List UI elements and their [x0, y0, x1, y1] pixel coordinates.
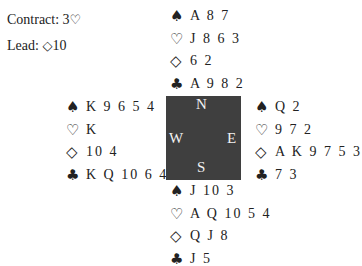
lead-info: Lead: ◇10	[7, 38, 66, 54]
west-clubs: ♣K Q 10 6 4	[66, 164, 168, 187]
club-icon: ♣	[170, 73, 190, 96]
north-spades: ♠A 8 7	[170, 5, 245, 28]
north-hearts: ♡J 8 6 3	[170, 28, 245, 51]
north-hand: ♠A 8 7 ♡J 8 6 3 ◇6 2 ♣A 9 8 2	[170, 5, 245, 95]
south-label: S	[197, 159, 205, 176]
diamond-icon: ◇	[42, 38, 52, 53]
lead-card: 10	[52, 38, 66, 53]
east-spades: ♠Q 2	[255, 96, 362, 119]
west-diamonds: ◇10 4	[66, 141, 168, 164]
heart-icon: ♡	[170, 203, 190, 226]
west-hand: ♠K 9 6 5 4 ♡K ◇10 4 ♣K Q 10 6 4	[66, 96, 168, 186]
diamond-icon: ◇	[170, 225, 190, 248]
east-diamonds: ◇A K 9 7 5 3	[255, 141, 362, 164]
lead-label: Lead:	[7, 38, 42, 53]
south-hearts: ♡A Q 10 5 4	[170, 203, 271, 226]
diamond-icon: ◇	[66, 141, 86, 164]
compass-table: N W E S	[166, 96, 241, 180]
club-icon: ♣	[170, 248, 190, 266]
spade-icon: ♠	[255, 96, 275, 119]
heart-icon: ♡	[255, 119, 275, 142]
spade-icon: ♠	[170, 5, 190, 28]
north-clubs: ♣A 9 8 2	[170, 73, 245, 96]
north-label: N	[196, 96, 207, 113]
south-diamonds: ◇Q J 8	[170, 225, 271, 248]
south-hand: ♠J 10 3 ♡A Q 10 5 4 ◇Q J 8 ♣J 5	[170, 180, 271, 266]
south-spades: ♠J 10 3	[170, 180, 271, 203]
west-label: W	[169, 130, 183, 147]
east-hearts: ♡9 7 2	[255, 119, 362, 142]
south-clubs: ♣J 5	[170, 248, 271, 266]
heart-icon: ♡	[70, 12, 82, 27]
spade-icon: ♠	[170, 180, 190, 203]
diamond-icon: ◇	[170, 50, 190, 73]
contract-info: Contract: 3♡	[7, 12, 81, 28]
club-icon: ♣	[66, 164, 86, 187]
heart-icon: ♡	[170, 28, 190, 51]
east-hand: ♠Q 2 ♡9 7 2 ◇A K 9 7 5 3 ♣7 3	[255, 96, 362, 186]
heart-icon: ♡	[66, 119, 86, 142]
diamond-icon: ◇	[255, 141, 275, 164]
contract-label: Contract: 3	[7, 12, 70, 27]
west-hearts: ♡K	[66, 119, 168, 142]
spade-icon: ♠	[66, 96, 86, 119]
east-label: E	[227, 130, 236, 147]
north-diamonds: ◇6 2	[170, 50, 245, 73]
west-spades: ♠K 9 6 5 4	[66, 96, 168, 119]
